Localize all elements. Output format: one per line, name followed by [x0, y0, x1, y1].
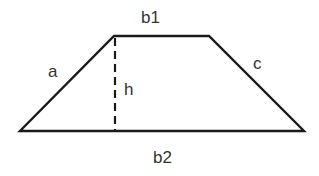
label-b2: b2	[153, 148, 172, 167]
trapezoid-shape	[20, 36, 304, 131]
label-b1: b1	[141, 8, 160, 27]
trapezoid-diagram: b1 a h c b2	[0, 0, 319, 176]
label-a: a	[48, 62, 58, 81]
label-h: h	[124, 80, 133, 99]
label-c: c	[253, 54, 262, 73]
